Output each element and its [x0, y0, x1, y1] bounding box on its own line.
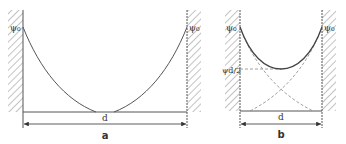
right-potential-label-a: ψ₀	[189, 23, 200, 33]
left-potential-label-a: ψ₀	[10, 23, 21, 33]
panel-b: ψ₀ ψ₀ ψd/2 d b	[222, 10, 336, 140]
caption-b: b	[277, 129, 284, 140]
combined-potential-curve-b	[240, 27, 322, 69]
caption-a: a	[102, 130, 109, 141]
dimension-label-a: d	[102, 113, 108, 123]
panel-a: ψ₀ ψ₀ d a	[8, 10, 201, 141]
left-decay-curve-a	[23, 27, 96, 112]
right-potential-label-b: ψ₀	[324, 23, 335, 33]
dimension-label-b: d	[278, 112, 284, 122]
double-layer-diagram: ψ₀ ψ₀ d a ψ₀ ψ₀ ψd/2 d b	[0, 0, 346, 144]
midplane-potential-label-b: ψd/2	[222, 66, 241, 75]
right-decay-curve-a	[114, 27, 187, 112]
left-potential-label-b: ψ₀	[226, 23, 237, 33]
